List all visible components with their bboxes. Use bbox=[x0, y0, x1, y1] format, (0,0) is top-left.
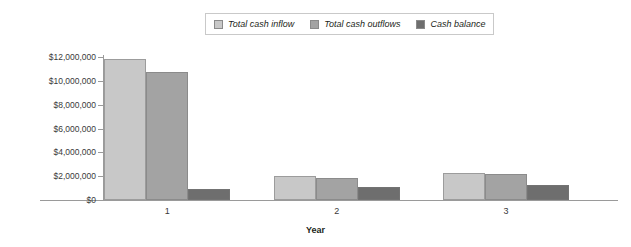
bar bbox=[358, 187, 400, 200]
legend-swatch-icon bbox=[416, 20, 425, 29]
x-axis-title: Year bbox=[0, 226, 631, 235]
y-axis-tick-label: $6,000,000 bbox=[34, 125, 96, 134]
legend-item-cash-balance: Cash balance bbox=[416, 20, 485, 29]
legend-label: Cash balance bbox=[430, 20, 485, 29]
legend-swatch-icon bbox=[310, 20, 319, 29]
bar bbox=[146, 72, 188, 200]
y-axis-tick-label: $12,000,000 bbox=[34, 53, 96, 62]
legend-swatch-icon bbox=[214, 20, 223, 29]
bar bbox=[485, 174, 527, 200]
bar bbox=[316, 178, 358, 200]
y-axis-tick-label: $0 bbox=[34, 196, 96, 205]
x-axis-tick-label: 3 bbox=[476, 207, 536, 216]
bar bbox=[104, 59, 146, 200]
x-axis-tick-label: 2 bbox=[307, 207, 367, 216]
legend-item-total-cash-inflow: Total cash inflow bbox=[214, 20, 294, 29]
bar bbox=[274, 176, 316, 200]
bar bbox=[443, 173, 485, 200]
bar bbox=[188, 189, 230, 200]
bar-group bbox=[274, 57, 400, 200]
y-axis-tick-label: $4,000,000 bbox=[34, 148, 96, 157]
x-axis-tick-label: 1 bbox=[137, 207, 197, 216]
chart-legend: Total cash inflow Total cash outflows Ca… bbox=[205, 13, 494, 35]
bar bbox=[527, 185, 569, 200]
y-axis-tick-label: $2,000,000 bbox=[34, 172, 96, 181]
plot-area bbox=[103, 57, 611, 200]
x-axis-line bbox=[40, 200, 618, 201]
y-axis-tick-label: $8,000,000 bbox=[34, 101, 96, 110]
bar-group bbox=[443, 57, 569, 200]
legend-label: Total cash inflow bbox=[228, 20, 294, 29]
legend-label: Total cash outflows bbox=[324, 20, 400, 29]
bar-chart: Total cash inflow Total cash outflows Ca… bbox=[0, 0, 631, 247]
legend-item-total-cash-outflows: Total cash outflows bbox=[310, 20, 400, 29]
y-axis-tick-label: $10,000,000 bbox=[34, 77, 96, 86]
bar-group bbox=[104, 57, 230, 200]
y-axis-tick-mark bbox=[98, 200, 103, 201]
